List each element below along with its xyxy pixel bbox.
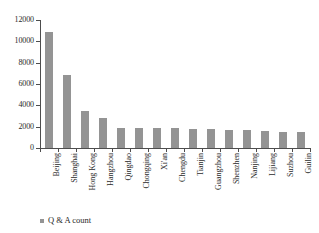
bar bbox=[297, 132, 305, 148]
x-axis-tick bbox=[58, 149, 59, 152]
x-axis-label: Nanjing bbox=[251, 153, 259, 179]
bar bbox=[207, 129, 215, 148]
x-axis-tick bbox=[76, 149, 77, 152]
x-axis-label: Chengdu bbox=[179, 153, 187, 182]
x-axis-tick bbox=[148, 149, 149, 152]
bar bbox=[261, 131, 269, 148]
x-axis-tick bbox=[166, 149, 167, 152]
y-axis-tick-label: 12000 bbox=[14, 16, 34, 24]
bar bbox=[63, 75, 71, 148]
bar bbox=[99, 118, 107, 148]
bar bbox=[117, 128, 125, 148]
x-axis-label: Xi'an bbox=[161, 153, 169, 170]
y-axis-tick-label: 4000 bbox=[18, 101, 34, 109]
x-axis-label: Beijing bbox=[53, 153, 61, 177]
x-axis-label: Shenzhen bbox=[233, 153, 241, 184]
x-axis-tick bbox=[94, 149, 95, 152]
y-axis-tick-label: 0 bbox=[30, 144, 34, 152]
x-axis-label: Hong Kong bbox=[89, 153, 97, 191]
x-axis-tick bbox=[184, 149, 185, 152]
y-axis-tick-label: 6000 bbox=[18, 80, 34, 88]
x-axis-line bbox=[40, 148, 311, 149]
x-axis-label: Hangzhou bbox=[107, 153, 115, 186]
x-axis-label: Guilin bbox=[305, 153, 313, 173]
x-axis-tick bbox=[274, 149, 275, 152]
x-axis-label: Guangzhou bbox=[215, 153, 223, 190]
x-axis-tick bbox=[112, 149, 113, 152]
bar bbox=[135, 128, 143, 148]
x-axis-label: Qingdao bbox=[125, 153, 133, 181]
bar bbox=[153, 128, 161, 148]
x-axis-tick bbox=[238, 149, 239, 152]
y-axis-tick-label: 8000 bbox=[18, 59, 34, 67]
x-axis-tick bbox=[202, 149, 203, 152]
bar bbox=[225, 130, 233, 148]
bar bbox=[171, 128, 179, 148]
bar bbox=[279, 132, 287, 148]
x-axis-label: Tianjin bbox=[197, 153, 205, 176]
legend-swatch-icon bbox=[40, 219, 44, 223]
plot-area bbox=[40, 20, 310, 148]
x-axis-label: Lijiang bbox=[269, 153, 277, 176]
legend-label: Q & A count bbox=[48, 216, 91, 225]
x-axis-tick bbox=[310, 149, 311, 152]
x-axis-label: Shanghai bbox=[71, 153, 79, 183]
bar bbox=[189, 129, 197, 148]
x-axis-tick bbox=[40, 149, 41, 152]
x-axis-label: Chongqing bbox=[143, 153, 151, 189]
y-axis-tick-label: 10000 bbox=[14, 37, 34, 45]
y-axis-tick-label: 2000 bbox=[18, 123, 34, 131]
x-axis-label: Suzhou bbox=[287, 153, 295, 177]
x-axis-tick bbox=[130, 149, 131, 152]
bar-chart: 020004000600080001000012000 BeijingShang… bbox=[0, 0, 319, 233]
x-axis-tick bbox=[292, 149, 293, 152]
chart-legend: Q & A count bbox=[40, 216, 91, 225]
bar bbox=[243, 130, 251, 148]
bar bbox=[45, 32, 53, 148]
x-axis-tick bbox=[256, 149, 257, 152]
x-axis-tick bbox=[220, 149, 221, 152]
bar bbox=[81, 111, 89, 148]
